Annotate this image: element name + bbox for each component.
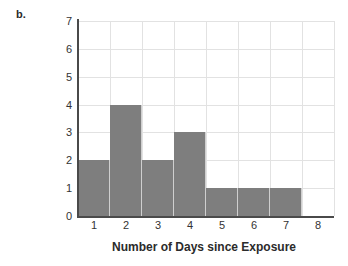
panel-letter-label: b. [16,8,26,20]
y-tick-label: 0 [54,211,72,222]
x-tick-label: 4 [180,220,200,231]
y-axis-tick-labels: 01234567 [54,0,72,266]
y-tick-label: 1 [54,183,72,194]
x-tick-label: 5 [212,220,232,231]
x-tick-label: 2 [116,220,136,231]
y-tick-label: 4 [54,100,72,111]
y-tick-label: 6 [54,44,72,55]
x-tick-label: 3 [148,220,168,231]
gridline-vertical [334,21,335,216]
x-tick-label: 7 [276,220,296,231]
y-tick-label: 7 [54,16,72,27]
y-tick-label: 3 [54,127,72,138]
y-tick-label: 5 [54,72,72,83]
x-tick-label: 6 [244,220,264,231]
histogram-figure: b. Frequency Number of Days since Exposu… [0,0,348,266]
y-tick-label: 2 [54,155,72,166]
x-axis-tick-labels: 12345678 [78,0,334,266]
x-tick-label: 1 [84,220,104,231]
x-tick-label: 8 [308,220,328,231]
